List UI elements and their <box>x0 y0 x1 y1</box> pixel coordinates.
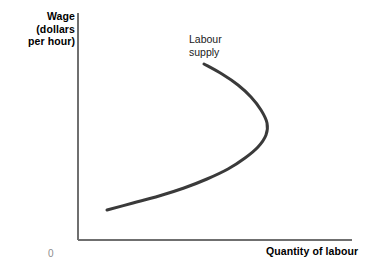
labour-supply-annotation: Labour supply <box>189 33 222 58</box>
labour-supply-curve <box>107 64 267 210</box>
x-axis-label: Quantity of labour <box>266 245 358 258</box>
y-axis-label: Wage (dollars per hour) <box>28 10 75 48</box>
origin-label: 0 <box>48 248 54 260</box>
labour-supply-chart: Wage (dollars per hour) Quantity of labo… <box>0 0 372 269</box>
